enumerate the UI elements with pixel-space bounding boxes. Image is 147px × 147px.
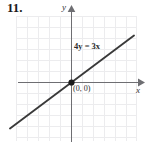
y-axis [68,5,76,142]
graph-figure: 11. [0,0,147,147]
y-axis-label: y [62,2,66,12]
coordinate-plane [0,0,147,147]
equation-annotation: 4y = 3x [74,41,100,51]
origin-coordinate-label: (0, 0) [73,84,90,93]
x-axis-label: x [136,85,140,95]
